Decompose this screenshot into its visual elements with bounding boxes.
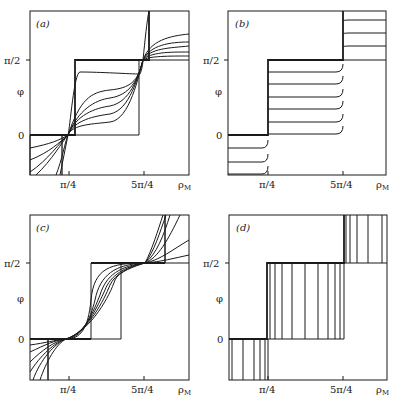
d-xtick-5pi4: 5π/4	[330, 384, 353, 395]
b-xlabel: ρM	[376, 179, 389, 192]
b-ylabel: φ	[215, 86, 222, 97]
tick-marks	[26, 60, 343, 380]
panel-d	[229, 215, 387, 380]
b-xtick-pi4: π/4	[259, 179, 275, 190]
d-ytick-0: 0	[217, 334, 223, 345]
panel-b-label: (b)	[235, 18, 249, 29]
a-ylabel: φ	[17, 86, 24, 97]
a-xtick-5pi4: 5π/4	[131, 179, 154, 190]
d-ytick-pi2: π/2	[203, 258, 219, 269]
a-xtick-pi4: π/4	[60, 179, 76, 190]
panel-a-label: (a)	[36, 18, 50, 29]
panel-b	[228, 11, 386, 175]
panel-a	[30, 11, 189, 175]
c-ytick-pi2: π/2	[4, 258, 20, 269]
b-xtick-5pi4: 5π/4	[330, 179, 353, 190]
c-ytick-0: 0	[18, 334, 24, 345]
c-xlabel: ρM	[178, 384, 191, 397]
a-ytick-pi2: π/2	[4, 55, 20, 66]
d-xtick-pi4: π/4	[259, 384, 275, 395]
panel-d-label: (d)	[236, 222, 250, 233]
panel-c-label: (c)	[36, 222, 50, 233]
d-xlabel: ρM	[376, 384, 389, 397]
c-xtick-pi4: π/4	[60, 384, 76, 395]
a-xlabel: ρM	[178, 179, 191, 192]
c-ylabel: φ	[17, 293, 24, 304]
b-ytick-0: 0	[216, 130, 222, 141]
figure: (a) (b) (c) (d) π/2 φ 0 π/4 5π/4 ρM π/2 …	[0, 0, 402, 405]
c-xtick-5pi4: 5π/4	[131, 384, 154, 395]
a-ytick-0: 0	[18, 130, 24, 141]
d-ylabel: φ	[216, 293, 223, 304]
panel-c	[30, 215, 189, 380]
b-ytick-pi2: π/2	[203, 55, 219, 66]
